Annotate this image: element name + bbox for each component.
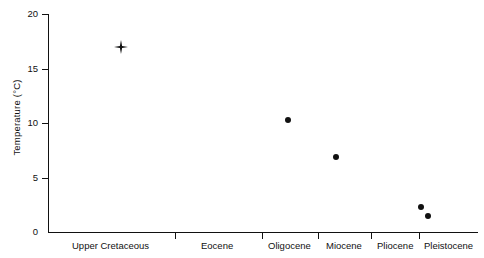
- x-tick-pliocene-pleistocene: [419, 233, 420, 239]
- y-tick-label-10: 10: [14, 118, 38, 128]
- x-label-oligocene: Oligocene: [268, 240, 311, 251]
- x-tick-cretaceous-eocene: [175, 233, 176, 239]
- y-tick-label-20: 20: [14, 9, 38, 19]
- x-label-eocene: Eocene: [201, 240, 233, 251]
- y-tick-label-15: 15: [14, 64, 38, 74]
- x-label-pleistocene: Pleistocene: [424, 240, 473, 251]
- temperature-scatter-chart: Temperature (°C) 20 15 10 5 0 Upper Cret…: [0, 0, 484, 258]
- y-tick-20: 20: [0, 14, 48, 15]
- y-tick-label-0: 0: [14, 227, 38, 237]
- x-tick-miocene-pliocene: [371, 233, 372, 239]
- x-label-upper-cretaceous: Upper Cretaceous: [72, 240, 149, 251]
- data-point-upper-cretaceous: [114, 40, 128, 54]
- data-point-pleistocene-upper: [418, 204, 424, 210]
- y-tick-0: 0: [0, 232, 48, 233]
- y-tick-10: 10: [0, 123, 48, 124]
- y-tick-label-5: 5: [14, 173, 38, 183]
- y-axis-line: [48, 14, 49, 233]
- x-label-miocene: Miocene: [326, 240, 362, 251]
- data-point-miocene: [333, 154, 339, 160]
- y-tick-5: 5: [0, 178, 48, 179]
- x-tick-eocene-oligocene: [262, 233, 263, 239]
- y-tick-15: 15: [0, 69, 48, 70]
- data-point-pleistocene-lower: [425, 213, 431, 219]
- x-tick-oligocene-miocene: [318, 233, 319, 239]
- x-label-pliocene: Pliocene: [377, 240, 413, 251]
- data-point-oligocene: [285, 117, 291, 123]
